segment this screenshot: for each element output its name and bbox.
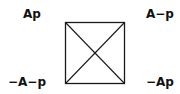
square-diagram	[0, 0, 180, 94]
